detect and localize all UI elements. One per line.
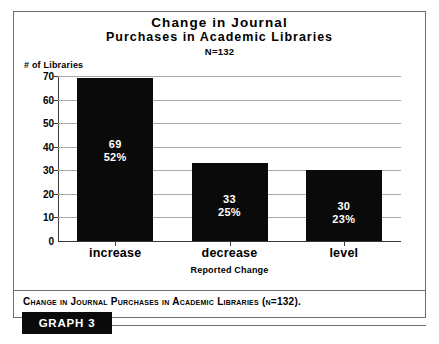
y-axis-tick-label: 10 (20, 212, 54, 223)
bar-percent: 52% (77, 151, 153, 164)
chart-panel: Change in Journal Purchases in Academic … (14, 12, 425, 290)
bar-value: 30 (306, 200, 382, 213)
y-axis-tick-label: 50 (20, 118, 54, 129)
figure-caption: Change in Journal Purchases in Academic … (23, 296, 301, 307)
y-axis-tick-label: 70 (20, 71, 54, 82)
y-axis-title: # of Libraries (24, 60, 83, 70)
y-axis-tick-mark (54, 217, 58, 218)
bar-level: 3023% (306, 170, 382, 241)
y-axis-tick-label: 40 (20, 141, 54, 152)
bar-value: 69 (77, 138, 153, 151)
bar-percent: 25% (192, 206, 268, 219)
y-axis-tick-mark (54, 123, 58, 124)
y-axis-tick-label: 30 (20, 165, 54, 176)
figure-graph-3: Change in Journal Purchases in Academic … (0, 0, 439, 344)
bar-percent: 23% (306, 213, 382, 226)
plot-area: 0102030405060706952%3325%3023% (58, 76, 401, 242)
bar-value-labels: 3325% (192, 193, 268, 219)
caption-divider (13, 290, 426, 291)
y-axis-tick-mark (54, 194, 58, 195)
y-axis-tick-label: 20 (20, 188, 54, 199)
chart-subtitle: N=132 (14, 45, 425, 58)
bar-value-labels: 6952% (77, 138, 153, 164)
y-axis-tick-mark (54, 100, 58, 101)
y-axis-tick-mark (54, 170, 58, 171)
graph-number-badge: GRAPH 3 (22, 312, 112, 334)
bar-value-labels: 3023% (306, 200, 382, 226)
x-axis-tick-label-increase: increase (58, 246, 172, 260)
x-axis-title: Reported Change (58, 265, 401, 275)
bar-value: 33 (192, 193, 268, 206)
y-axis-tick-mark (54, 76, 58, 77)
y-axis-tick-label: 0 (20, 236, 54, 247)
bar-decrease: 3325% (192, 163, 268, 241)
y-axis-tick-mark (54, 147, 58, 148)
chart-title-block: Change in Journal Purchases in Academic … (14, 15, 425, 58)
chart-title-line-1: Change in Journal (14, 15, 425, 30)
x-axis-tick-label-level: level (287, 246, 401, 260)
chart-title-line-2: Purchases in Academic Libraries (14, 30, 425, 45)
bar-increase: 6952% (77, 78, 153, 241)
gridline (58, 76, 401, 77)
y-axis-tick-label: 60 (20, 94, 54, 105)
x-axis-tick-label-decrease: decrease (172, 246, 286, 260)
